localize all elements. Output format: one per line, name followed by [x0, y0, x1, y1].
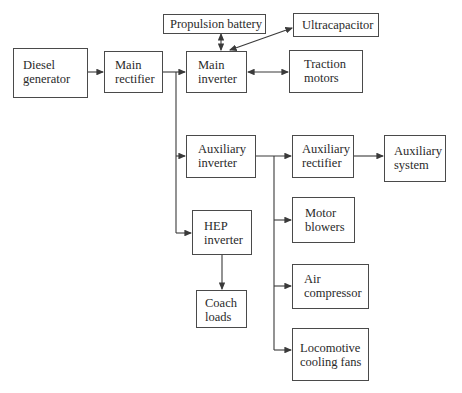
node-main-inverter: Main inverter — [186, 51, 247, 93]
node-label: Main inverter — [198, 58, 237, 86]
node-label: Air compressor — [304, 272, 362, 300]
node-label: Coach loads — [205, 296, 237, 324]
node-diesel-generator: Diesel generator — [13, 48, 88, 98]
node-hep-inverter: HEP inverter — [192, 210, 252, 255]
node-label: Motor blowers — [305, 206, 345, 234]
node-ultracapacitor: Ultracapacitor — [293, 13, 379, 37]
node-label: Propulsion battery — [170, 17, 262, 31]
node-label: Auxiliary inverter — [198, 142, 246, 170]
node-label: Auxiliary rectifier — [302, 142, 350, 170]
node-motor-blowers: Motor blowers — [292, 197, 355, 243]
node-locomotive-cooling-fans: Locomotive cooling fans — [292, 328, 369, 381]
node-label: Locomotive cooling fans — [300, 341, 361, 369]
node-auxiliary-inverter: Auxiliary inverter — [186, 135, 256, 178]
node-traction-motors: Traction motors — [289, 50, 363, 93]
node-label: Diesel generator — [23, 58, 70, 86]
node-auxiliary-rectifier: Auxiliary rectifier — [292, 135, 354, 178]
node-label: HEP inverter — [204, 219, 243, 247]
node-label: Ultracapacitor — [302, 18, 373, 32]
node-auxiliary-system: Auxiliary system — [384, 135, 446, 182]
node-coach-loads: Coach loads — [196, 290, 247, 328]
node-label: Traction motors — [304, 57, 346, 85]
node-main-rectifier: Main rectifier — [104, 51, 163, 93]
node-propulsion-battery: Propulsion battery — [163, 14, 266, 34]
node-label: Main rectifier — [115, 58, 155, 86]
node-air-compressor: Air compressor — [292, 264, 369, 309]
node-label: Auxiliary system — [394, 144, 442, 172]
